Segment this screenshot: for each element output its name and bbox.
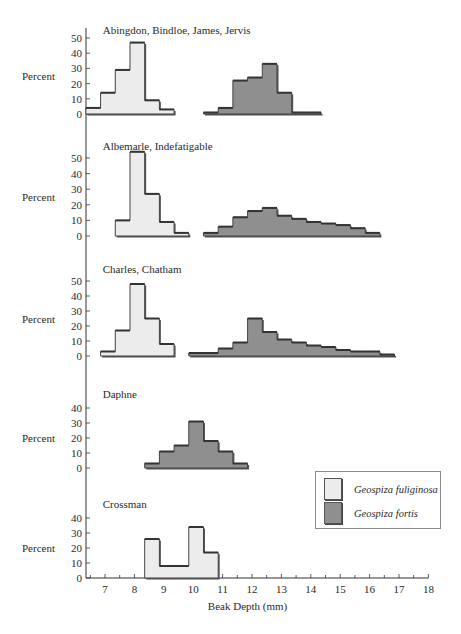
y-tick-label: 50 bbox=[71, 152, 83, 164]
y-tick-label: 0 bbox=[77, 572, 83, 584]
y-tick-label: 40 bbox=[71, 512, 83, 524]
y-tick-label: 20 bbox=[71, 199, 83, 211]
y-tick-label: 20 bbox=[71, 542, 83, 554]
y-tick-label: 10 bbox=[71, 557, 83, 569]
x-tick-label: 13 bbox=[276, 583, 288, 595]
y-tick-label: 40 bbox=[71, 290, 83, 302]
x-tick-label: 17 bbox=[394, 583, 406, 595]
figure: 789101112131415161718Beak Depth (mm)0102… bbox=[0, 0, 461, 634]
y-tick-label: 30 bbox=[71, 527, 83, 539]
legend-swatch-fortis bbox=[324, 502, 342, 524]
y-tick-label: 40 bbox=[71, 402, 83, 414]
y-axis-label: Percent bbox=[22, 313, 55, 325]
legend: Geospiza fuliginosa Geospiza fortis bbox=[315, 471, 441, 529]
x-tick-label: 11 bbox=[217, 583, 228, 595]
y-tick-label: 50 bbox=[71, 275, 83, 287]
histogram-fortis bbox=[145, 422, 248, 469]
x-tick-label: 10 bbox=[188, 583, 200, 595]
y-tick-label: 0 bbox=[77, 230, 83, 242]
x-axis-label: Beak Depth (mm) bbox=[208, 600, 288, 613]
x-tick-label: 15 bbox=[335, 583, 347, 595]
x-tick-label: 16 bbox=[364, 583, 376, 595]
y-tick-label: 10 bbox=[71, 214, 83, 226]
histogram-fortis bbox=[203, 64, 321, 114]
y-tick-label: 10 bbox=[71, 335, 83, 347]
histogram-fuliginosa bbox=[101, 284, 175, 356]
legend-item-fuliginosa: Geospiza fuliginosa bbox=[324, 478, 438, 500]
panel-title: Abingdon, Bindloe, James, Jervis bbox=[103, 24, 251, 36]
y-tick-label: 20 bbox=[71, 78, 83, 90]
histogram-fortis bbox=[203, 208, 379, 236]
y-tick-label: 50 bbox=[71, 32, 83, 44]
y-axis-label: Percent bbox=[22, 191, 55, 203]
y-tick-label: 10 bbox=[71, 447, 83, 459]
y-tick-label: 0 bbox=[77, 462, 83, 474]
y-tick-label: 40 bbox=[71, 168, 83, 180]
y-axis-label: Percent bbox=[22, 432, 55, 444]
y-tick-label: 0 bbox=[77, 108, 83, 120]
legend-swatch-fuliginosa bbox=[324, 478, 342, 500]
y-tick-label: 30 bbox=[71, 183, 83, 195]
y-tick-label: 10 bbox=[71, 93, 83, 105]
x-tick-label: 9 bbox=[161, 583, 167, 595]
panel-title: Charles, Chatham bbox=[103, 263, 182, 275]
x-tick-label: 12 bbox=[247, 583, 258, 595]
legend-label-fortis: Geospiza fortis bbox=[354, 508, 418, 519]
y-tick-label: 20 bbox=[71, 432, 83, 444]
y-tick-label: 30 bbox=[71, 305, 83, 317]
panel-title: Crossman bbox=[103, 498, 147, 510]
y-tick-label: 0 bbox=[77, 350, 83, 362]
y-tick-label: 40 bbox=[71, 47, 83, 59]
y-tick-label: 30 bbox=[71, 62, 83, 74]
y-axis-label: Percent bbox=[22, 70, 55, 82]
legend-label-fuliginosa: Geospiza fuliginosa bbox=[354, 484, 438, 495]
histogram-fortis bbox=[189, 319, 395, 357]
x-tick-label: 18 bbox=[423, 583, 435, 595]
y-tick-label: 30 bbox=[71, 417, 83, 429]
x-tick-label: 7 bbox=[102, 583, 108, 595]
panel-title: Daphne bbox=[103, 388, 137, 400]
legend-item-fortis: Geospiza fortis bbox=[324, 502, 418, 524]
y-tick-label: 20 bbox=[71, 320, 83, 332]
panel-title: Albemarle, Indefatigable bbox=[103, 140, 213, 152]
x-tick-label: 14 bbox=[305, 583, 317, 595]
histogram-figure: 789101112131415161718Beak Depth (mm)0102… bbox=[0, 0, 461, 634]
x-tick-label: 8 bbox=[132, 583, 138, 595]
y-axis-label: Percent bbox=[22, 542, 55, 554]
